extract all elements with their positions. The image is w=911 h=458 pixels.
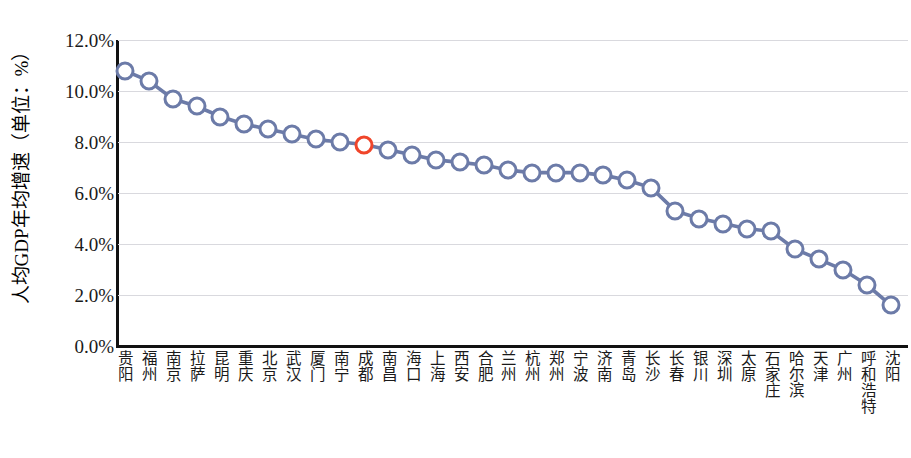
data-point	[307, 130, 326, 149]
y-axis-tick: 6.0%	[74, 184, 114, 203]
data-point	[857, 275, 876, 294]
data-point	[666, 201, 685, 220]
data-point	[139, 71, 158, 90]
x-axis-tick: 呼和浩特	[859, 350, 875, 455]
x-axis-tick: 西安	[452, 350, 468, 455]
x-axis-tick: 深圳	[715, 350, 731, 455]
data-point	[642, 178, 661, 197]
data-point	[881, 296, 900, 315]
x-axis-tick: 上海	[428, 350, 444, 455]
y-axis-tick: 0.0%	[74, 337, 114, 356]
y-axis-tick: 8.0%	[74, 133, 114, 152]
x-axis-tick: 重庆	[237, 350, 253, 455]
data-point	[594, 166, 613, 185]
x-axis-tick: 贵阳	[117, 350, 133, 455]
x-axis-tick: 哈尔滨	[787, 350, 803, 455]
x-axis-tick: 厦门	[308, 350, 324, 455]
data-point	[714, 214, 733, 233]
x-axis-tick: 海口	[404, 350, 420, 455]
data-point	[762, 222, 781, 241]
x-axis-tick: 杭州	[524, 350, 540, 455]
series-markers	[118, 40, 908, 346]
data-point	[690, 209, 709, 228]
data-point	[283, 125, 302, 144]
x-axis-tick: 郑州	[548, 350, 564, 455]
x-axis-tick: 长春	[668, 350, 684, 455]
data-point	[402, 145, 421, 164]
x-axis-tick-labels: 贵阳福州南京拉萨昆明重庆北京武汉厦门南宁成都南昌海口上海西安合肥兰州杭州郑州宁波…	[118, 350, 908, 458]
x-axis-tick: 合肥	[476, 350, 492, 455]
x-axis-tick: 太原	[739, 350, 755, 455]
x-axis-tick: 成都	[356, 350, 372, 455]
data-point	[259, 120, 278, 139]
data-point	[379, 140, 398, 159]
y-axis-tick: 12.0%	[65, 31, 114, 50]
data-point	[115, 61, 134, 80]
plot-area	[118, 40, 908, 346]
x-axis-tick: 广州	[835, 350, 851, 455]
x-axis-tick: 武汉	[285, 350, 301, 455]
data-point	[570, 163, 589, 182]
x-axis-tick: 宁波	[572, 350, 588, 455]
data-point	[163, 89, 182, 108]
x-axis-tick: 北京	[261, 350, 277, 455]
data-point	[498, 161, 517, 180]
x-axis-tick: 长沙	[644, 350, 660, 455]
data-point	[809, 250, 828, 269]
data-point	[833, 260, 852, 279]
data-point	[618, 171, 637, 190]
data-point	[786, 240, 805, 259]
x-axis-tick: 南宁	[332, 350, 348, 455]
y-axis-tick: 10.0%	[65, 82, 114, 101]
x-axis-tick: 石家庄	[763, 350, 779, 455]
x-axis-tick: 福州	[141, 350, 157, 455]
x-axis-tick: 济南	[596, 350, 612, 455]
y-axis-tick-labels: 12.0%10.0%8.0%6.0%4.0%2.0%0.0%	[56, 0, 114, 458]
y-axis-tick: 4.0%	[74, 235, 114, 254]
data-point	[235, 115, 254, 134]
data-point	[211, 107, 230, 126]
data-point	[426, 150, 445, 169]
y-axis-tick: 2.0%	[74, 286, 114, 305]
x-axis-tick: 兰州	[500, 350, 516, 455]
x-axis-tick: 青岛	[620, 350, 636, 455]
x-axis-tick: 拉萨	[189, 350, 205, 455]
data-point	[522, 163, 541, 182]
data-point	[450, 153, 469, 172]
chart-container: 人均GDP年均增速（单位：%） 12.0%10.0%8.0%6.0%4.0%2.…	[0, 0, 911, 458]
x-axis-tick: 沈阳	[883, 350, 899, 455]
x-axis-tick: 南京	[165, 350, 181, 455]
x-axis-tick: 银川	[691, 350, 707, 455]
data-point	[187, 97, 206, 116]
data-point	[546, 163, 565, 182]
x-axis-tick: 南昌	[380, 350, 396, 455]
x-axis-tick: 昆明	[213, 350, 229, 455]
data-point	[474, 155, 493, 174]
data-point	[355, 135, 374, 154]
data-point	[738, 219, 757, 238]
data-point	[331, 133, 350, 152]
x-axis-tick: 天津	[811, 350, 827, 455]
y-axis-title: 人均GDP年均增速（单位：%）	[2, 0, 36, 346]
